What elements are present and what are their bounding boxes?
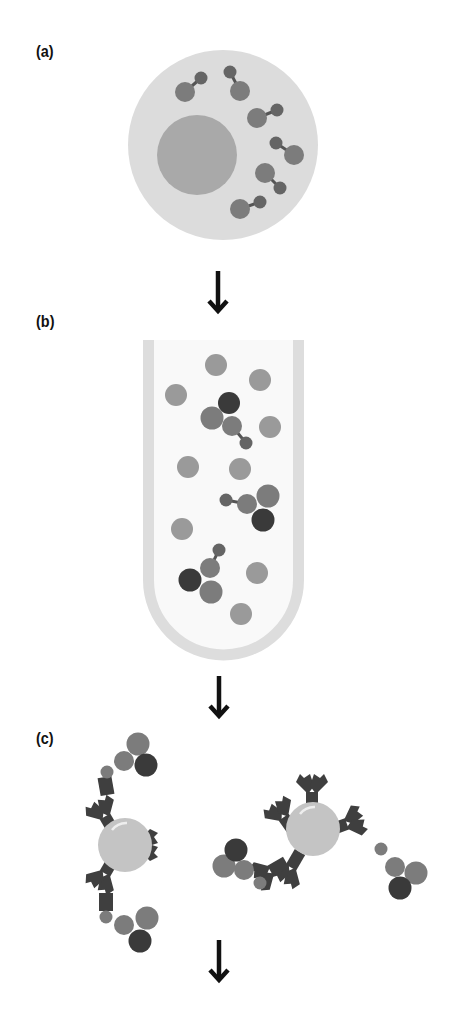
nucleus (157, 115, 237, 195)
free-molecule (246, 562, 268, 584)
arrow-down-icon (209, 271, 227, 311)
free-molecule (177, 456, 199, 478)
free-molecule (230, 603, 252, 625)
diagram-canvas (0, 0, 454, 1010)
bead-complex-left (82, 733, 158, 953)
free-molecule (229, 458, 251, 480)
bead (98, 818, 152, 872)
cell-panel (128, 50, 318, 240)
arrow-down-icon (210, 676, 228, 716)
free-molecule (165, 384, 187, 406)
free-molecule (249, 369, 271, 391)
free-molecule (259, 416, 281, 438)
bead (286, 802, 340, 856)
free-molecule (171, 518, 193, 540)
bead-complex-right (213, 774, 428, 900)
free-molecule (205, 354, 227, 376)
arrow-down-icon (210, 940, 228, 980)
